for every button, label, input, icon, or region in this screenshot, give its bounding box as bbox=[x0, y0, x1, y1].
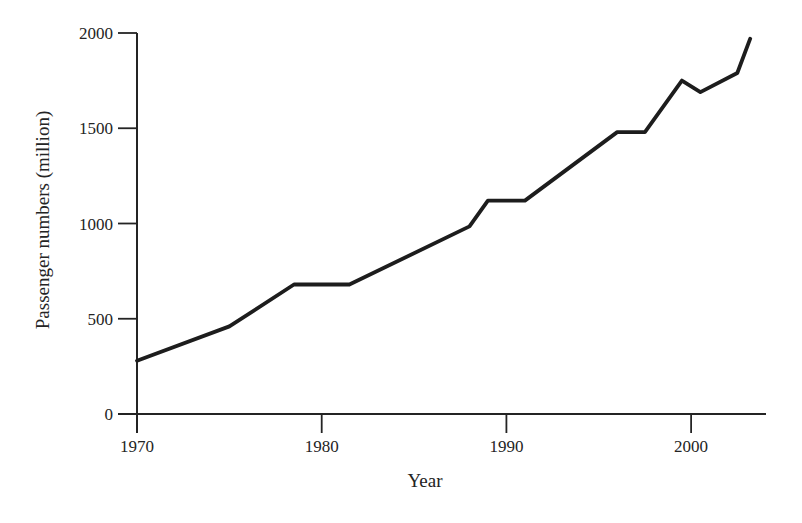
y-tick-label: 1500 bbox=[79, 119, 113, 138]
y-tick-label: 0 bbox=[105, 405, 114, 424]
chart-plot-area: 19701980199020000500100015002000 bbox=[79, 24, 766, 456]
figure-canvas: 19701980199020000500100015002000 Passeng… bbox=[0, 0, 802, 523]
y-axis-title: Passenger numbers (million) bbox=[32, 111, 54, 329]
data-series-line bbox=[137, 39, 750, 361]
x-tick-label: 1980 bbox=[305, 437, 339, 456]
y-tick-label: 500 bbox=[88, 310, 114, 329]
x-axis-title: Year bbox=[407, 470, 443, 491]
x-tick-label: 2000 bbox=[674, 437, 708, 456]
y-tick-label: 1000 bbox=[79, 215, 113, 234]
x-tick-label: 1970 bbox=[120, 437, 154, 456]
passenger-numbers-line-chart: 19701980199020000500100015002000 Passeng… bbox=[0, 0, 802, 523]
y-tick-label: 2000 bbox=[79, 24, 113, 43]
x-tick-label: 1990 bbox=[489, 437, 523, 456]
